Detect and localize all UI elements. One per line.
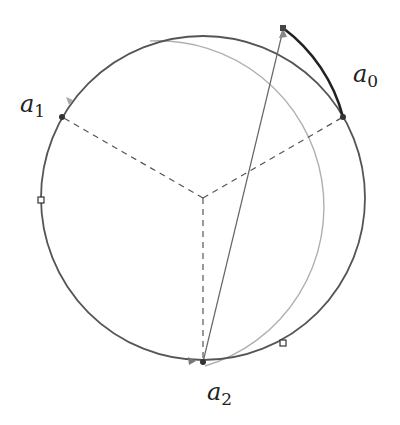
label-a1-base: a [20, 90, 34, 118]
point-a0 [340, 114, 346, 120]
label-a2-base: a [207, 378, 221, 406]
point-a2 [200, 359, 206, 365]
square-marker [280, 340, 286, 346]
label-a1: a1 [20, 92, 45, 120]
square-marker [38, 197, 44, 203]
label-a0-sub: 0 [367, 71, 378, 91]
point-a1 [59, 114, 65, 120]
chord-line [203, 30, 283, 362]
chord-endpoint-marker [280, 25, 286, 31]
radius-a1 [62, 117, 203, 198]
outer-offset-arc [150, 41, 324, 366]
label-a0-base: a [353, 60, 367, 88]
label-a2: a2 [207, 380, 232, 408]
label-a1-sub: 1 [34, 101, 45, 121]
label-a2-sub: 2 [221, 389, 232, 409]
arrowhead-icon [188, 357, 196, 365]
label-a0: a0 [353, 62, 378, 90]
diagram-canvas [0, 0, 400, 425]
circle-diagram: a0 a1 a2 [0, 0, 400, 425]
